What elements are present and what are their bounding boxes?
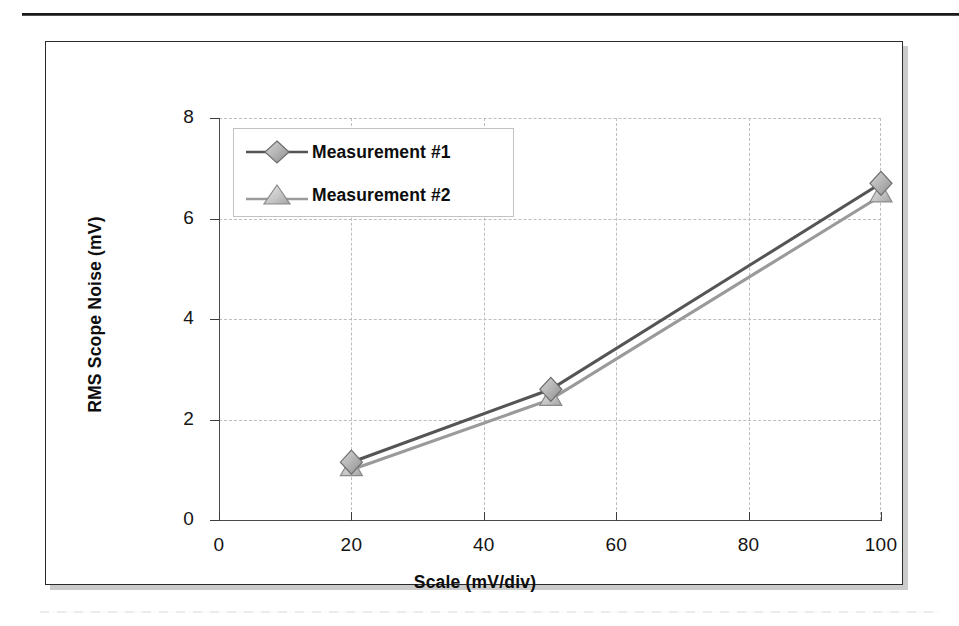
page-top-rule xyxy=(22,13,959,16)
legend-label: Measurement #2 xyxy=(312,185,451,206)
page-bottom-artifact xyxy=(40,611,940,613)
legend-item: Measurement #1 xyxy=(234,130,513,174)
legend-marker-diamond-icon xyxy=(242,137,312,167)
series-plot xyxy=(46,42,904,586)
legend-marker-triangle-icon xyxy=(242,180,312,210)
chart-legend: Measurement #1 Measurement #2 xyxy=(233,128,514,217)
chart-figure-frame: 8 6 4 2 0 0 20 40 60 80 100 Scale (mV/di… xyxy=(45,41,903,585)
legend-label: Measurement #1 xyxy=(312,142,451,163)
legend-item: Measurement #2 xyxy=(234,173,513,217)
